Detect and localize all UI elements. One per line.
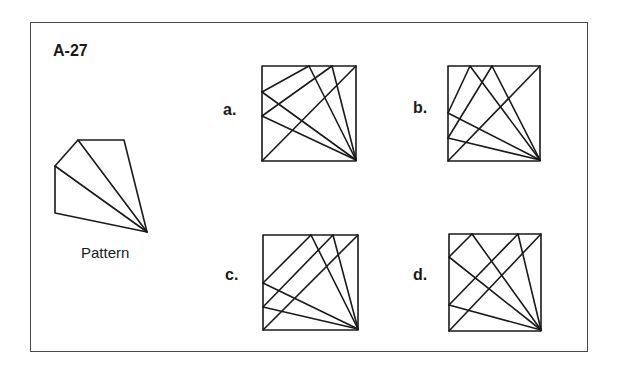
figure-line (448, 66, 492, 138)
figure-line (449, 234, 472, 257)
figure-line (263, 235, 311, 283)
figure-line (263, 235, 358, 330)
figure-line (449, 257, 541, 330)
figures-canvas (0, 0, 620, 376)
figure-line (262, 66, 356, 161)
option-a-figure[interactable] (262, 66, 356, 161)
figure-line (518, 234, 541, 330)
figure-line (263, 283, 358, 329)
option-c-figure[interactable] (263, 235, 358, 330)
figure-line (311, 235, 358, 329)
figure-line (449, 234, 541, 331)
option-b-figure[interactable] (448, 66, 540, 161)
figure-line (472, 234, 541, 330)
pattern-figure (55, 140, 147, 232)
figure-line (448, 113, 540, 160)
figure-line (492, 66, 540, 160)
figure-line (309, 66, 356, 160)
figure-line (78, 140, 147, 232)
figure-line (448, 66, 540, 161)
figure-line (263, 307, 358, 329)
figure-line (333, 235, 358, 329)
option-d-figure[interactable] (449, 234, 541, 331)
pattern-outline (55, 140, 147, 232)
figure-line (262, 116, 356, 160)
